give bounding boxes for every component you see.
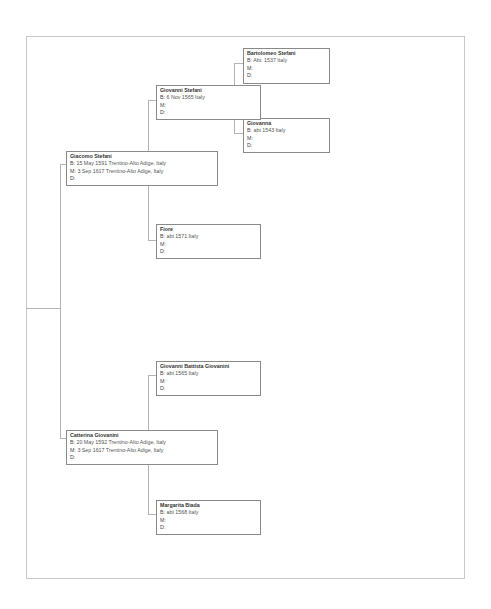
marriage-row: M: 3 Sep 1617 Trentino-Alto Adige, Italy — [70, 168, 214, 175]
person-card-giacomo-stefani[interactable]: Giacomo Stefani B: 15 May 1591 Trentino-… — [66, 151, 218, 186]
person-card-margarita-biada[interactable]: Margarita Biada B: abt 1568 Italy M: D: — [156, 500, 261, 535]
connector — [234, 63, 243, 64]
birth-row: B: 20 May 1592 Trentino-Alto Adige, Ital… — [70, 439, 214, 446]
birth-value: Abt. 1537 Italy — [253, 57, 287, 63]
person-name: Giovanni Battista Giovanini — [160, 363, 257, 370]
birth-value: 15 May 1591 Trentino-Alto Adige, Italy — [77, 160, 167, 166]
person-card-fiore[interactable]: Fiore B: abt 1571 Italy M: D: — [156, 224, 261, 259]
birth-value: abt 1568 Italy — [167, 509, 199, 515]
person-name: Giovanna — [247, 120, 326, 127]
birth-row: B: abt 1571 Italy — [160, 233, 257, 240]
person-card-catterina-giovanini[interactable]: Catterina Giovanini B: 20 May 1592 Trent… — [66, 430, 218, 465]
connector — [148, 240, 156, 241]
connector — [148, 514, 156, 515]
birth-row: B: abt 1543 Italy — [247, 127, 326, 134]
person-name: Fiore — [160, 226, 257, 233]
person-name: Bartolomeo Stefani — [247, 50, 326, 57]
birth-value: abt 1571 Italy — [167, 233, 199, 239]
person-name: Catterina Giovanini — [70, 432, 214, 439]
connector — [60, 164, 61, 438]
marriage-row: M: — [160, 517, 257, 524]
death-row: D: — [70, 454, 214, 461]
person-card-bartolomeo-stefani[interactable]: Bartolomeo Stefani B: Abt. 1537 Italy M:… — [243, 48, 330, 84]
birth-value: abt 1565 Italy — [167, 370, 199, 376]
death-row: D: — [247, 142, 326, 149]
birth-row: B: abt 1565 Italy — [160, 370, 257, 377]
marriage-row: M: — [160, 378, 257, 385]
connector — [148, 375, 156, 376]
marriage-row: M: 3 Sep 1617 Trentino-Alto Adige, Italy — [70, 447, 214, 454]
person-name: Giacomo Stefani — [70, 153, 214, 160]
death-row: D: — [160, 109, 257, 116]
marriage-row: M: — [160, 241, 257, 248]
person-card-giovanni-stefani[interactable]: Giovanni Stefani B: 6 Nov 1565 Italy M: … — [156, 85, 261, 120]
birth-value: 6 Nov 1565 Italy — [167, 94, 205, 100]
marriage-row: M: — [247, 65, 326, 72]
connector — [26, 308, 60, 309]
person-name: Giovanni Stefani — [160, 87, 257, 94]
marriage-value: 3 Sep 1617 Trentino-Alto Adige, Italy — [77, 447, 163, 453]
death-row: D: — [70, 175, 214, 182]
death-row: D: — [160, 385, 257, 392]
marriage-row: M: — [160, 102, 257, 109]
connector — [234, 133, 243, 134]
birth-value: 20 May 1592 Trentino-Alto Adige, Italy — [77, 439, 167, 445]
marriage-row: M: — [247, 135, 326, 142]
person-card-giovanni-battista-giovanini[interactable]: Giovanni Battista Giovanini B: abt 1565 … — [156, 361, 261, 396]
birth-row: B: 15 May 1591 Trentino-Alto Adige, Ital… — [70, 160, 214, 167]
connector — [148, 100, 156, 101]
birth-row: B: abt 1568 Italy — [160, 509, 257, 516]
death-row: D: — [247, 72, 326, 79]
birth-row: B: 6 Nov 1565 Italy — [160, 94, 257, 101]
death-row: D: — [160, 248, 257, 255]
birth-row: B: Abt. 1537 Italy — [247, 57, 326, 64]
death-row: D: — [160, 524, 257, 531]
person-card-giovanna[interactable]: Giovanna B: abt 1543 Italy M: D: — [243, 118, 330, 153]
marriage-value: 3 Sep 1617 Trentino-Alto Adige, Italy — [77, 168, 163, 174]
birth-value: abt 1543 Italy — [254, 127, 286, 133]
person-name: Margarita Biada — [160, 502, 257, 509]
